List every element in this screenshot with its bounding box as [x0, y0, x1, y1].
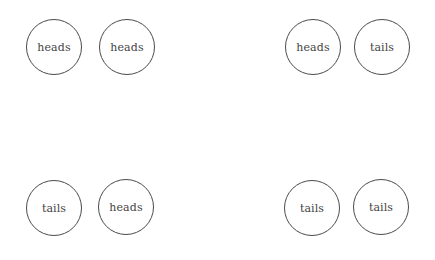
coin-label: tails [370, 41, 394, 54]
coin-label: heads [109, 201, 142, 214]
coin: tails [353, 179, 409, 235]
coin: heads [98, 179, 154, 235]
coin-label: heads [110, 41, 143, 54]
coin-label: tails [42, 202, 66, 215]
coin-label: tails [369, 201, 393, 214]
coin: tails [284, 180, 340, 236]
coin-label: heads [37, 41, 70, 54]
coin: tails [26, 180, 82, 236]
coin: heads [285, 19, 341, 75]
coin: tails [354, 19, 410, 75]
coin: heads [26, 19, 82, 75]
coin: heads [99, 19, 155, 75]
coin-label: tails [300, 202, 324, 215]
coin-label: heads [296, 41, 329, 54]
